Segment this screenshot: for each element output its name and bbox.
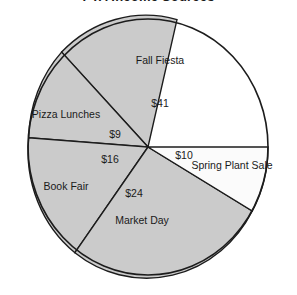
pie-chart: PTA Income Sources Fall Fiesta $41 Pizza… [0, 0, 297, 295]
slice-value-market-day: $24 [125, 187, 143, 199]
slice-label-spring-plant-sale: Spring Plant Sale [187, 159, 277, 172]
slice-label-fall-fiesta: Fall Fiesta [136, 54, 184, 66]
slice-label-book-fair: Book Fair [44, 180, 89, 192]
slice-label-pizza-lunches: Pizza Lunches [25, 108, 107, 121]
slice-value-fall-fiesta: $41 [151, 97, 169, 109]
pie-svg [0, 0, 297, 295]
slice-value-pizza-lunches: $9 [109, 128, 121, 140]
slice-value-spring-plant-sale: $10 [175, 149, 193, 161]
slice-value-book-fair: $16 [101, 153, 119, 165]
slice-label-market-day: Market Day [115, 214, 169, 226]
